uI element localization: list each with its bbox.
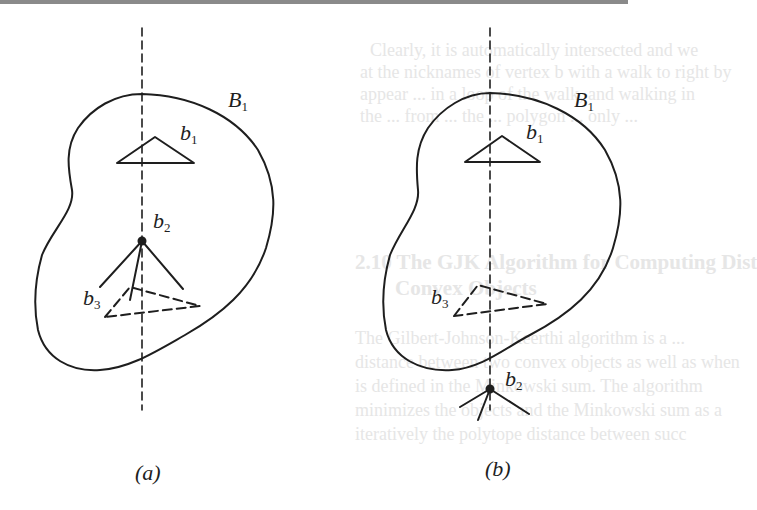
- label-b1: b1: [180, 122, 198, 146]
- label-b3: b3: [431, 286, 449, 310]
- label-b2: b2: [505, 368, 523, 392]
- label-region-b1: B1: [228, 89, 248, 113]
- dashed-triangle-b3: [454, 285, 547, 316]
- dashed-triangle-b3: [105, 287, 200, 317]
- caption-b: (b): [485, 458, 511, 480]
- label-b2: b2: [153, 210, 171, 234]
- label-b3: b3: [83, 287, 101, 311]
- caption-a: (a): [135, 462, 161, 484]
- label-region-b1: B1: [574, 89, 594, 113]
- region-b1-outline: [383, 93, 620, 370]
- vertex-dot: [139, 238, 146, 245]
- label-b1: b1: [526, 121, 544, 145]
- vertex-dot: [487, 386, 494, 393]
